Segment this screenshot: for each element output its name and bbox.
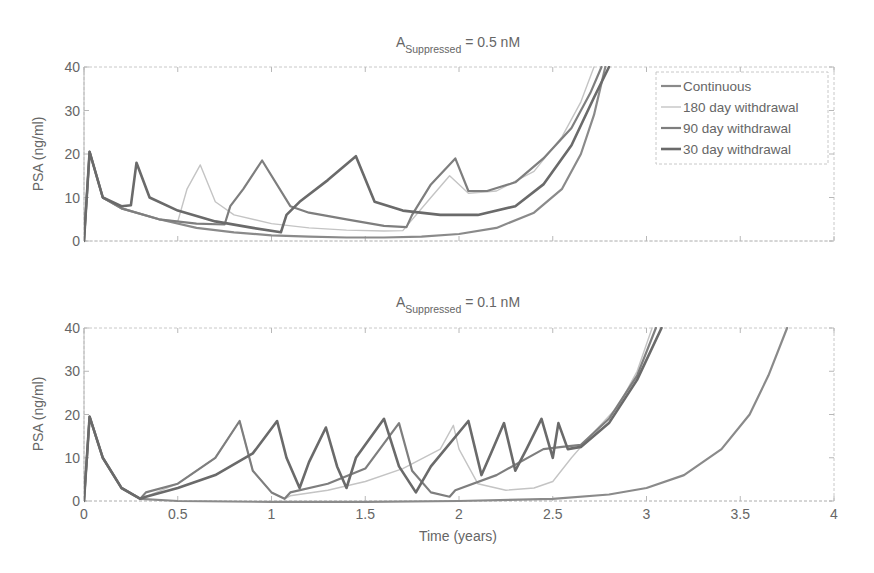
bottom-plot-ylabel: PSA (ng/ml) — [30, 377, 46, 452]
bottom-plot-lines — [84, 328, 787, 502]
x-tick-label: 2.5 — [543, 506, 563, 522]
y-tick-label: 10 — [64, 450, 80, 466]
x-tick-label: 0 — [80, 506, 88, 522]
y-tick-label: 20 — [64, 407, 80, 423]
x-tick-label: 3.5 — [731, 506, 751, 522]
y-tick-label: 0 — [72, 493, 80, 509]
top-plot-ylabel: PSA (ng/ml) — [30, 117, 46, 192]
y-tick-label: 30 — [64, 363, 80, 379]
x-tick-label: 2 — [455, 506, 463, 522]
legend-label: 180 day withdrawal — [683, 100, 799, 115]
y-tick-label: 10 — [64, 190, 80, 206]
x-tick-label: 1 — [268, 506, 276, 522]
series-30-day-withdrawal — [84, 328, 662, 501]
bottom-plot-title: ASuppressed = 0.1 nM — [396, 294, 520, 315]
bottom-plot-ticks: 00.511.522.533.54010203040 — [64, 320, 838, 522]
figure: ASuppressed = 0.5 nM 010203040 PSA (ng/m… — [0, 0, 874, 573]
legend-label: 30 day withdrawal — [683, 142, 791, 157]
y-tick-label: 40 — [64, 59, 80, 75]
top-plot-title: ASuppressed = 0.5 nM — [396, 34, 520, 55]
x-tick-label: 0.5 — [168, 506, 188, 522]
top-plot: ASuppressed = 0.5 nM 010203040 PSA (ng/m… — [30, 34, 834, 249]
bottom-plot-frame — [84, 328, 834, 501]
bottom-plot-xlabel: Time (years) — [419, 528, 497, 544]
y-tick-label: 0 — [72, 233, 80, 249]
x-tick-label: 3 — [643, 506, 651, 522]
series-180-day-withdrawal — [84, 328, 652, 501]
y-tick-label: 40 — [64, 320, 80, 336]
y-tick-label: 30 — [64, 103, 80, 119]
legend-label: 90 day withdrawal — [683, 121, 791, 136]
series-90-day-withdrawal — [84, 67, 602, 241]
y-tick-label: 20 — [64, 146, 80, 162]
series-90-day-withdrawal — [84, 328, 656, 501]
legend-label: Continuous — [683, 79, 752, 94]
series-continuous — [84, 67, 605, 241]
bottom-plot: ASuppressed = 0.1 nM 00.511.522.533.5401… — [30, 294, 838, 544]
x-tick-label: 4 — [830, 506, 838, 522]
top-plot-lines — [84, 67, 609, 241]
legend: Continuous180 day withdrawal90 day withd… — [656, 72, 828, 164]
x-tick-label: 1.5 — [356, 506, 376, 522]
series-180-day-withdrawal — [84, 67, 594, 241]
